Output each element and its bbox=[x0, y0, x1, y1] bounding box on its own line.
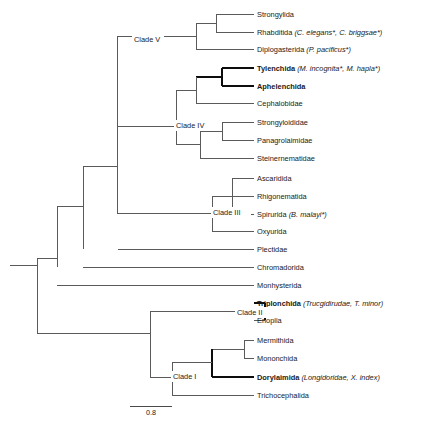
taxon-species-detail: (Longidoridae, X. index) bbox=[301, 373, 380, 382]
taxon-label-ascaridida: Ascaridida bbox=[257, 174, 292, 183]
taxon-label-plectidae: Plectidae bbox=[257, 245, 287, 254]
taxon-label-steinernematidae: Steinernematidae bbox=[257, 154, 315, 163]
taxon-name: Steinernematidae bbox=[257, 154, 315, 163]
taxon-name: Diplogasterida bbox=[257, 45, 305, 54]
taxon-name: Spirurida bbox=[257, 210, 287, 219]
taxon-label-strongylida: Strongylida bbox=[257, 10, 295, 19]
taxon-label-rhigonematida: Rhigonematida bbox=[257, 192, 308, 201]
taxon-label-chromadorida: Chromadorida bbox=[257, 263, 305, 272]
phylogenetic-tree-figure: StrongylidaRhabditida (C. elegans*, C. b… bbox=[0, 0, 432, 425]
taxon-name: Trichocephalida bbox=[257, 391, 310, 400]
taxon-name: Strongyloididae bbox=[257, 118, 308, 127]
taxon-name: Strongylida bbox=[257, 10, 295, 19]
scale-bar-label: 0.8 bbox=[146, 408, 156, 417]
taxon-label-strongyloididae: Strongyloididae bbox=[257, 118, 308, 127]
taxon-label-layer: StrongylidaRhabditida (C. elegans*, C. b… bbox=[257, 10, 384, 400]
taxon-label-tylenchida: Tylenchida (M. incognita*, M. hapla*) bbox=[257, 64, 381, 73]
scale-bar: 0.8 bbox=[130, 406, 172, 417]
taxon-name: Cephalobidae bbox=[257, 99, 303, 108]
taxon-species-detail: (C. elegans*, C. briggsae*) bbox=[294, 28, 382, 37]
taxon-label-monhysterida: Monhysterida bbox=[257, 281, 302, 290]
taxon-name: Mermithida bbox=[257, 336, 294, 345]
taxon-species-detail: (P. pacificus*) bbox=[306, 45, 351, 54]
taxon-name: Ascaridida bbox=[257, 174, 292, 183]
taxon-name: Rhigonematida bbox=[257, 192, 308, 201]
taxon-name: Mononchida bbox=[257, 354, 298, 363]
taxon-label-cephalobidae: Cephalobidae bbox=[257, 99, 303, 108]
taxon-label-rhabditida: Rhabditida (C. elegans*, C. briggsae*) bbox=[257, 28, 383, 37]
taxon-label-oxyurida: Oxyurida bbox=[257, 227, 287, 236]
taxon-label-aphelenchida: Aphelenchida bbox=[257, 82, 306, 91]
taxon-name: Aphelenchida bbox=[257, 82, 306, 91]
taxon-name: Plectidae bbox=[257, 245, 287, 254]
taxon-name: Chromadorida bbox=[257, 263, 305, 272]
taxon-label-trichocephalida: Trichocephalida bbox=[257, 391, 310, 400]
clade-label-clade-iii: Clade III bbox=[213, 208, 241, 217]
taxon-name: Rhabditida bbox=[257, 28, 293, 37]
clade-label-clade-v: Clade V bbox=[134, 35, 160, 44]
branch-layer bbox=[10, 14, 265, 395]
clade-label-clade-ii: Clade II bbox=[237, 308, 262, 317]
cladogram-canvas: StrongylidaRhabditida (C. elegans*, C. b… bbox=[0, 0, 432, 425]
taxon-label-diplogasterida: Diplogasterida (P. pacificus*) bbox=[257, 45, 351, 54]
taxon-name: Tylenchida bbox=[257, 64, 296, 73]
taxon-name: Monhysterida bbox=[257, 281, 302, 290]
taxon-label-mermithida: Mermithida bbox=[257, 336, 294, 345]
clade-label-clade-iv: Clade IV bbox=[176, 121, 204, 130]
taxon-species-detail: (M. incognita*, M. hapla*) bbox=[297, 64, 381, 73]
taxon-label-dorylaimida: Dorylaimida (Longidoridae, X. index) bbox=[257, 373, 380, 382]
taxon-label-mononchida: Mononchida bbox=[257, 354, 298, 363]
taxon-label-panagrolaimidae: Panagrolaimidae bbox=[257, 136, 312, 145]
clade-label-clade-i: Clade I bbox=[173, 372, 196, 381]
taxon-name: Panagrolaimidae bbox=[257, 136, 312, 145]
taxon-species-detail: (Trucgidirudae, T. minor) bbox=[303, 299, 384, 308]
taxon-label-spirurida: Spirurida (B. malayi*) bbox=[257, 210, 327, 219]
taxon-species-detail: (B. malayi*) bbox=[289, 210, 328, 219]
taxon-name: Dorylaimida bbox=[257, 373, 300, 382]
taxon-name: Oxyurida bbox=[257, 227, 287, 236]
taxon-label-triplonchida: Triplonchida (Trucgidirudae, T. minor) bbox=[257, 299, 384, 308]
taxon-name: Triplonchida bbox=[257, 299, 302, 308]
